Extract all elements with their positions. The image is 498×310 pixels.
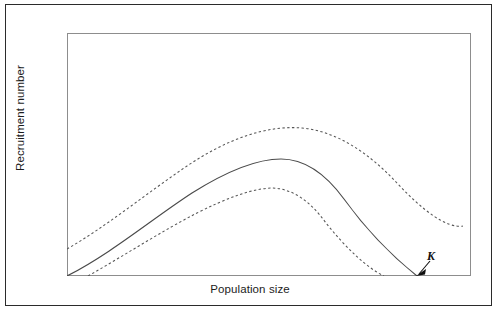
figure-container: Recruitment number Population size K bbox=[0, 0, 498, 310]
carrying-capacity-label: K bbox=[427, 250, 435, 262]
curve-mean-recruitment bbox=[67, 159, 417, 276]
x-axis-title: Population size bbox=[120, 283, 380, 295]
y-axis-title: Recruitment number bbox=[14, 18, 26, 218]
plot-curves bbox=[67, 33, 471, 276]
k-pointer bbox=[416, 261, 430, 276]
curve-lower-confidence bbox=[88, 188, 384, 276]
